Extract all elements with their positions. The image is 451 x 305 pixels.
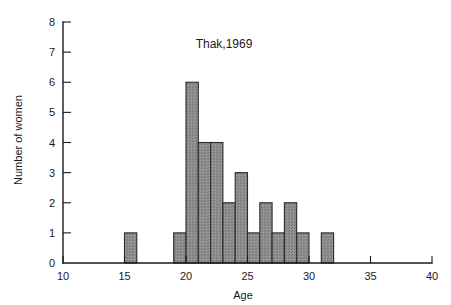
histogram-bar <box>223 203 235 263</box>
histogram-bar <box>174 233 186 263</box>
histogram-bar <box>198 143 210 264</box>
histogram-figure: 10152025303540 012345678 Thak,1969 Age N… <box>0 0 451 305</box>
y-tick-label: 1 <box>49 227 55 239</box>
y-axis-tick-labels: 012345678 <box>49 16 55 269</box>
histogram-bar <box>211 143 223 264</box>
histogram-bar <box>235 173 247 263</box>
histogram-bar <box>321 233 333 263</box>
histogram-bar <box>297 233 309 263</box>
x-tick-label: 35 <box>364 270 376 282</box>
x-tick-label: 10 <box>57 270 69 282</box>
y-tick-label: 5 <box>49 106 55 118</box>
y-tick-label: 3 <box>49 167 55 179</box>
x-tick-label: 30 <box>303 270 315 282</box>
x-tick-label: 40 <box>426 270 438 282</box>
x-tick-label: 15 <box>118 270 130 282</box>
histogram-bar <box>248 233 260 263</box>
chart-title: Thak,1969 <box>196 37 253 51</box>
histogram-bar <box>260 203 272 263</box>
x-tick-label: 25 <box>241 270 253 282</box>
y-tick-label: 2 <box>49 197 55 209</box>
y-tick-label: 6 <box>49 76 55 88</box>
x-axis-title: Age <box>233 289 253 301</box>
y-tick-label: 4 <box>49 137 55 149</box>
histogram-bar <box>284 203 296 263</box>
histogram-bar <box>186 82 198 263</box>
y-axis-title: Number of women <box>12 95 24 185</box>
y-tick-label: 0 <box>49 257 55 269</box>
y-tick-label: 7 <box>49 46 55 58</box>
y-tick-label: 8 <box>49 16 55 28</box>
chart-canvas: 10152025303540 012345678 Thak,1969 Age N… <box>0 0 451 305</box>
x-tick-label: 20 <box>180 270 192 282</box>
histogram-bar <box>125 233 137 263</box>
histogram-bar <box>272 233 284 263</box>
